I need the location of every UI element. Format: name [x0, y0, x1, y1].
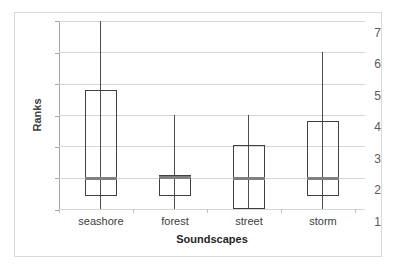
chart-frame: 7 6 5 4 3 2 1 Ranks: [14, 12, 382, 257]
x-tick-mark: [207, 209, 208, 213]
chart-screenshot: 7 6 5 4 3 2 1 Ranks: [0, 0, 397, 267]
plot-area: [59, 21, 365, 209]
median-storm: [307, 177, 339, 180]
x-tick-label-seashore: seashore: [61, 215, 141, 228]
median-seashore: [85, 177, 117, 180]
median-street: [233, 177, 265, 180]
y-axis-title: Ranks: [31, 85, 43, 145]
x-tick-label-storm: storm: [283, 215, 363, 228]
gridline-1: [59, 209, 365, 210]
x-tick-mark: [59, 209, 60, 213]
x-tick-mark: [281, 209, 282, 213]
median-forest: [159, 176, 191, 179]
x-tick-label-forest: forest: [135, 215, 215, 228]
x-axis-title: Soundscapes: [59, 233, 365, 245]
x-tick-mark: [133, 209, 134, 213]
gridline-5: [59, 84, 365, 85]
box-storm: [307, 121, 339, 196]
gridline-6: [59, 52, 365, 53]
x-tick-mark: [355, 209, 356, 213]
gridline-7: [59, 21, 365, 22]
x-tick-label-street: street: [209, 215, 289, 228]
box-seashore: [85, 90, 117, 196]
